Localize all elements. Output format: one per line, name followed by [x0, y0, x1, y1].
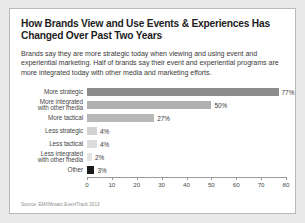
bar-track: 77%: [87, 86, 286, 99]
axis-tick: [87, 177, 88, 180]
bar-category-line1: Less strategic: [45, 127, 83, 134]
bar-track: 50%: [87, 99, 286, 112]
page-title: How Brands View and Use Events & Experie…: [21, 18, 284, 43]
bar-value-label: 2%: [92, 154, 104, 161]
axis-tick: [236, 177, 237, 180]
bar-value-label: 77%: [279, 89, 295, 96]
bar-category-line2: with other media: [21, 157, 83, 164]
bar-category-line1: Less tactical: [49, 140, 83, 147]
bar-track: 4%: [87, 138, 286, 151]
bar-track: 3%: [87, 164, 286, 177]
source-note: Source: EMI/Mosaic EventTrack 2013: [21, 202, 100, 207]
chart-row: More tactical27%: [21, 112, 286, 125]
bar: [87, 127, 97, 135]
bar-category-label: Less tactical: [21, 141, 87, 148]
chart-row: Other3%: [21, 164, 286, 177]
bar-category-label: Less strategic: [21, 128, 87, 135]
bar: [87, 166, 94, 174]
bar-category-line1: More tactical: [48, 114, 83, 121]
axis-tick: [261, 177, 262, 180]
axis-tick: [286, 177, 287, 180]
axis-tick-label: 30: [158, 181, 165, 188]
bar-rows: More strategic77%More integratedwith oth…: [21, 86, 286, 177]
axis-tick: [187, 177, 188, 180]
bar-track: 2%: [87, 151, 286, 164]
bar: [87, 140, 97, 148]
axis-tick: [137, 177, 138, 180]
bar-track: 27%: [87, 112, 286, 125]
axis-tick-label: 10: [108, 181, 115, 188]
bar-track: 4%: [87, 125, 286, 138]
bar: [87, 101, 211, 109]
summary-paragraph: Brands say they are more strategic today…: [21, 50, 284, 79]
bar-category-label: More strategic: [21, 89, 87, 96]
bar-category-label: More integratedwith other media: [21, 99, 87, 112]
infographic-card: How Brands View and Use Events & Experie…: [9, 8, 296, 214]
bar: [87, 114, 154, 122]
x-axis: 01020304050607080: [87, 177, 286, 191]
bar-value-label: 3%: [94, 167, 106, 174]
axis-tick-label: 70: [258, 181, 265, 188]
axis-tick-label: 80: [283, 181, 290, 188]
bar-category-label: Less integratedwith other media: [21, 151, 87, 164]
bar-category-line1: More strategic: [44, 88, 83, 95]
axis-tick-label: 20: [133, 181, 140, 188]
bar-chart: More strategic77%More integratedwith oth…: [21, 86, 286, 186]
axis-tick-label: 0: [85, 181, 88, 188]
axis-tick: [211, 177, 212, 180]
bar-value-label: 27%: [154, 115, 170, 122]
bar-category-line1: Other: [68, 166, 83, 173]
bar-category-line2: with other media: [21, 105, 83, 112]
axis-tick-label: 60: [233, 181, 240, 188]
bar-value-label: 50%: [211, 102, 227, 109]
axis-tick: [112, 177, 113, 180]
axis-tick-label: 40: [183, 181, 190, 188]
page-background: How Brands View and Use Events & Experie…: [0, 0, 305, 223]
axis-tick-label: 50: [208, 181, 215, 188]
bar-category-label: Other: [21, 167, 87, 174]
chart-row: Less strategic4%: [21, 125, 286, 138]
bar-value-label: 4%: [97, 128, 109, 135]
bar-category-label: More tactical: [21, 115, 87, 122]
chart-row: More integratedwith other media50%: [21, 99, 286, 112]
chart-row: Less integratedwith other media2%: [21, 151, 286, 164]
bar: [87, 88, 279, 96]
bar-value-label: 4%: [97, 141, 109, 148]
axis-tick: [162, 177, 163, 180]
